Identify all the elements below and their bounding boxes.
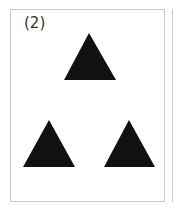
triangle-bottom-right-icon: [104, 120, 155, 167]
triangle-bottom-left-icon: [23, 120, 75, 167]
triangle-top-icon: [64, 33, 116, 80]
triangles-canvas: [0, 0, 176, 207]
